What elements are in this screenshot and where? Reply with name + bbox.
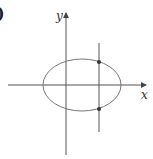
ellipse-diagram bbox=[0, 0, 153, 159]
intersection-point-top bbox=[97, 60, 101, 64]
x-axis-label: x bbox=[141, 88, 148, 102]
intersection-point-bottom bbox=[97, 107, 101, 111]
y-axis-label: y bbox=[56, 9, 63, 23]
